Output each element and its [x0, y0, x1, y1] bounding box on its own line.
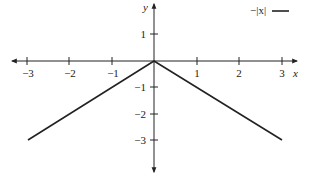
y-tick-labels: 1 −1 −2 −3	[134, 28, 146, 146]
svg-text:−2: −2	[64, 67, 76, 79]
svg-text:−3: −3	[22, 67, 34, 79]
chart: −3 −2 −1 1 2 3 1 −1 −2 −3 y x −|x|	[0, 0, 316, 182]
svg-text:2: 2	[236, 67, 242, 79]
y-axis-label: y	[142, 1, 148, 13]
legend-label: −|x|	[250, 4, 266, 16]
svg-text:1: 1	[141, 28, 147, 40]
x-axis-label: x	[292, 67, 298, 79]
svg-text:1: 1	[194, 67, 200, 79]
svg-text:−3: −3	[134, 134, 146, 146]
svg-text:−1: −1	[107, 67, 119, 79]
svg-text:3: 3	[279, 67, 285, 79]
svg-text:−1: −1	[134, 81, 146, 93]
svg-text:−2: −2	[134, 108, 146, 120]
legend: −|x|	[250, 4, 289, 16]
